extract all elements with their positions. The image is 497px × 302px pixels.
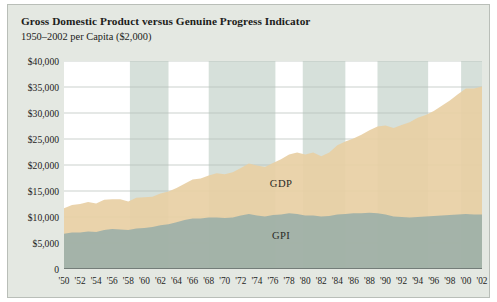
- x-axis-tick-label: '02: [477, 276, 488, 286]
- chart-title: Gross Domestic Product versus Genuine Pr…: [21, 15, 310, 27]
- plot-area: GDPGPI: [64, 61, 482, 269]
- x-axis-tick-label: '00: [460, 276, 471, 286]
- y-axis-tick-label: $30,000: [28, 108, 59, 119]
- y-axis-tick-label: $40,000: [28, 56, 59, 67]
- x-axis-tick-label: '54: [91, 276, 102, 286]
- x-axis-tick-label: '70: [219, 276, 230, 286]
- x-axis-tick-label: '72: [235, 276, 246, 286]
- x-axis-tick-label: '88: [364, 276, 375, 286]
- x-axis-tick-label: '60: [139, 276, 150, 286]
- y-axis-labels: 0$5,000$10,000$15,000$20,000$25,000$30,0…: [8, 61, 59, 269]
- y-axis-tick-label: $10,000: [28, 212, 59, 223]
- chart-subtitle: 1950–2002 per Capita ($2,000): [21, 31, 151, 42]
- x-axis-tick-label: '90: [380, 276, 391, 286]
- x-axis-tick-label: '56: [107, 276, 118, 286]
- y-axis-tick-label: $15,000: [28, 186, 59, 197]
- y-axis-tick-label: $25,000: [28, 134, 59, 145]
- x-axis-tick-label: '50: [59, 276, 70, 286]
- x-axis-tick-label: '76: [268, 276, 279, 286]
- x-axis-tick-label: '62: [155, 276, 166, 286]
- x-axis-tick-label: '68: [203, 276, 214, 286]
- y-axis-tick-label: $5,000: [33, 238, 59, 249]
- x-axis-tick-label: '64: [171, 276, 182, 286]
- series-label-gpi: GPI: [272, 229, 290, 240]
- x-axis-tick-label: '66: [187, 276, 198, 286]
- x-axis-tick-label: '74: [251, 276, 262, 286]
- x-axis-tick-label: '96: [428, 276, 439, 286]
- x-axis-labels: '50'52'54'56'58'60'62'64'66'68'70'72'74'…: [64, 276, 484, 292]
- x-axis-tick-label: '94: [412, 276, 423, 286]
- x-axis-tick-label: '84: [332, 276, 343, 286]
- x-axis-tick-label: '58: [123, 276, 134, 286]
- x-axis-tick-label: '78: [284, 276, 295, 286]
- x-axis-tick-label: '80: [300, 276, 311, 286]
- y-axis-tick-label: $35,000: [28, 82, 59, 93]
- x-axis-tick-label: '86: [348, 276, 359, 286]
- y-axis-tick-label: $20,000: [28, 160, 59, 171]
- series-label-gdp: GDP: [270, 178, 292, 189]
- chart-figure: Gross Domestic Product versus Genuine Pr…: [7, 4, 490, 298]
- x-axis-tick-label: '92: [396, 276, 407, 286]
- y-axis-tick-label: 0: [54, 264, 59, 275]
- x-axis-tick-label: '52: [75, 276, 86, 286]
- x-axis-tick-label: '82: [316, 276, 327, 286]
- x-axis-tick-label: '98: [444, 276, 455, 286]
